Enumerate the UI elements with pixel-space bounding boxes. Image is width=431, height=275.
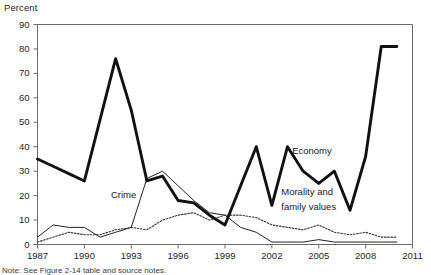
y-tick-label: 80 (4, 43, 30, 54)
series-annotation: Crime (111, 190, 136, 201)
x-tick-label: 2011 (393, 250, 431, 261)
x-tick-label: 2008 (346, 250, 386, 261)
y-tick-label: 90 (4, 19, 30, 30)
series-annotation: Morality and (281, 187, 333, 198)
y-tick-label: 70 (4, 67, 30, 78)
y-tick-label: 50 (4, 116, 30, 127)
series-line (38, 47, 397, 225)
x-tick-label: 2005 (299, 250, 339, 261)
x-tick-label: 1993 (111, 250, 151, 261)
x-tick-label: 1996 (158, 250, 198, 261)
series-annotation: family values (281, 202, 336, 213)
y-tick-label: 30 (4, 165, 30, 176)
x-tick-label: 1987 (18, 250, 58, 261)
figure-note: Note: See Figure 2-14 table and source n… (2, 266, 166, 275)
x-tick-label: 2002 (252, 250, 292, 261)
series-annotation: Economy (292, 146, 332, 157)
series-line (38, 213, 397, 242)
x-tick-label: 1999 (205, 250, 245, 261)
y-tick-label: 0 (4, 239, 30, 250)
y-tick-label: 20 (4, 190, 30, 201)
y-tick-label: 40 (4, 141, 30, 152)
x-tick-label: 1990 (64, 250, 104, 261)
y-tick-label: 60 (4, 92, 30, 103)
y-tick-label: 10 (4, 214, 30, 225)
series-line (38, 171, 397, 242)
